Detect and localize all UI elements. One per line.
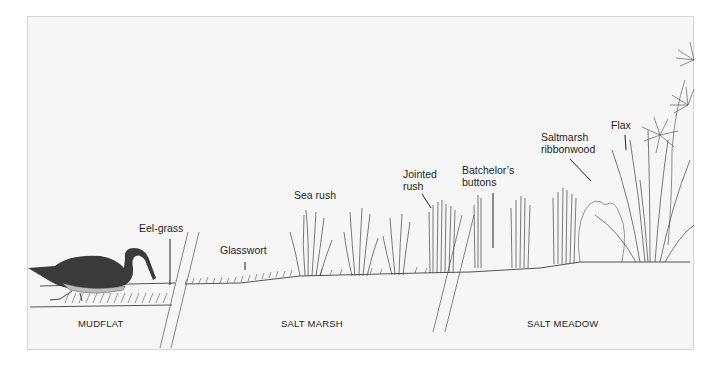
salt-marsh-illustration	[0, 0, 710, 370]
section-break-1	[160, 232, 199, 348]
zone-label-mudflat: MUDFLAT	[78, 318, 124, 329]
zone-label-salt-marsh: SALT MARSH	[281, 318, 343, 329]
label-flax: Flax	[611, 119, 631, 131]
sea-rush-clumps	[290, 208, 410, 276]
label-glasswort: Glasswort	[220, 244, 267, 256]
leader-lines	[170, 135, 626, 285]
meadow-rushes	[474, 188, 576, 268]
ribbonwood-shrub	[578, 201, 624, 262]
section-break-2	[433, 215, 474, 332]
label-sea-rush: Sea rush	[294, 189, 336, 201]
marsh-ground-line	[185, 262, 690, 284]
label-eel-grass: Eel-grass	[139, 222, 183, 234]
label-saltmarsh-ribbonwood: Saltmarsh ribbonwood	[541, 131, 595, 155]
mudflat-ground-line	[30, 305, 172, 307]
zone-label-salt-meadow: SALT MEADOW	[527, 318, 599, 329]
label-jointed-rush: Jointed rush	[403, 168, 437, 192]
label-batchelors-buttons: Batchelor’s buttons	[462, 164, 514, 188]
jointed-rush-clump	[429, 200, 455, 273]
flax-clump	[595, 130, 694, 262]
black-swan-icon	[28, 248, 156, 301]
